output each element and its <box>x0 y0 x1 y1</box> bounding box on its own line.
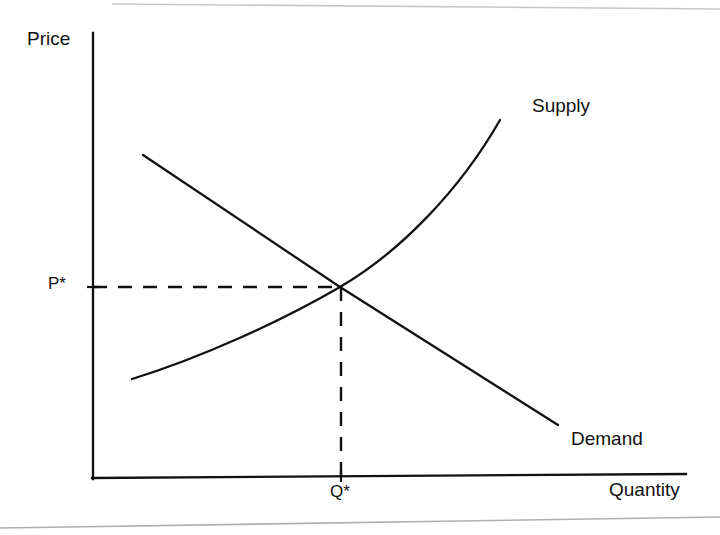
x-axis-tick-label-qstar: Q* <box>330 483 350 500</box>
x-axis <box>92 474 686 478</box>
y-axis-tick-label-pstar: P* <box>48 275 66 292</box>
page-top-rule <box>112 4 720 9</box>
x-axis-label: Quantity <box>609 480 680 499</box>
demand-curve-label: Demand <box>571 429 643 448</box>
supply-demand-figure: Price P* Q* Quantity Supply Demand <box>0 0 720 535</box>
page-bottom-rule <box>0 517 720 528</box>
supply-curve-label: Supply <box>532 96 590 115</box>
chart-canvas <box>0 0 720 535</box>
supply-curve <box>132 120 500 379</box>
y-axis-label: Price <box>27 29 70 48</box>
demand-curve <box>143 155 558 425</box>
